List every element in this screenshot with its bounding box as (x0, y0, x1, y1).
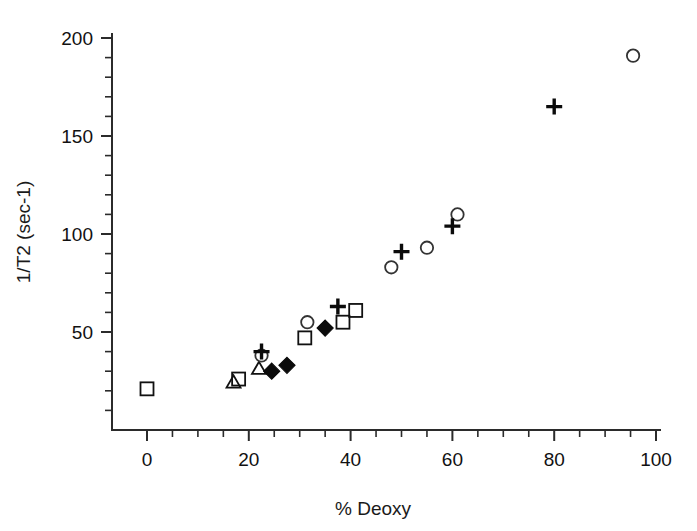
marker-open-circle (421, 242, 433, 254)
axis-spines (112, 34, 660, 430)
x-tick-label: 100 (640, 449, 672, 470)
marker-open-square (141, 382, 154, 395)
plot-canvas: 02040608010050100150200 % Deoxy 1/T2 (se… (0, 0, 697, 531)
marker-filled-diamond (264, 363, 280, 379)
x-tick-label: 60 (442, 449, 463, 470)
marker-plus (394, 244, 410, 260)
axis-group (112, 34, 660, 430)
x-axis-title: % Deoxy (335, 498, 412, 519)
data-markers-group (141, 49, 640, 395)
tick-marks-group (101, 38, 656, 441)
marker-open-square (349, 304, 362, 317)
x-tick-label: 80 (544, 449, 565, 470)
scatter-plot-figure: 02040608010050100150200 % Deoxy 1/T2 (se… (0, 0, 697, 531)
tick-labels-group: 02040608010050100150200 (61, 28, 672, 470)
series-filled-diamond (264, 320, 333, 379)
series-open-circle (255, 49, 639, 361)
x-tick-label: 0 (142, 449, 153, 470)
marker-filled-diamond (279, 357, 295, 373)
marker-filled-diamond (317, 320, 333, 336)
marker-open-circle (627, 49, 639, 61)
series-plus (254, 99, 563, 360)
x-tick-label: 20 (238, 449, 259, 470)
series-open-square (141, 304, 363, 395)
x-tick-label: 40 (340, 449, 361, 470)
y-tick-label: 50 (72, 322, 93, 343)
y-axis-title: 1/T2 (sec-1) (13, 181, 34, 283)
y-tick-label: 100 (61, 224, 93, 245)
marker-plus (546, 99, 562, 115)
marker-plus (330, 299, 346, 315)
marker-open-square (336, 316, 349, 329)
y-tick-label: 200 (61, 28, 93, 49)
marker-open-circle (385, 261, 397, 273)
y-tick-label: 150 (61, 126, 93, 147)
marker-open-circle (301, 316, 313, 328)
marker-open-square (298, 331, 311, 344)
